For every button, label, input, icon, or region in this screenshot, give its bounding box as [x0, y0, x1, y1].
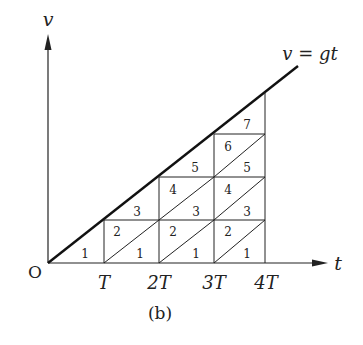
- region-label: 5: [243, 161, 251, 175]
- region-label: 3: [133, 205, 141, 219]
- region-label: 3: [192, 205, 200, 219]
- tick-label-4T: 4T: [253, 272, 279, 293]
- region-label: 1: [192, 247, 200, 261]
- region-label: 6: [224, 140, 232, 154]
- region-label: 2: [113, 225, 121, 239]
- tick-label-3T: 3T: [202, 272, 227, 293]
- region-label: 2: [224, 225, 232, 239]
- region-label: 5: [191, 161, 199, 175]
- t-axis-label: t: [334, 252, 342, 274]
- v-axis-label: v: [43, 8, 54, 30]
- region-label: 1: [243, 247, 251, 261]
- tick-label-2T: 2T: [146, 272, 172, 293]
- region-label: 3: [243, 205, 251, 219]
- tick-label-T: T: [98, 272, 112, 293]
- t-axis-arrow-icon: [312, 260, 328, 267]
- line-label: v = gt: [282, 43, 338, 64]
- v-axis-arrow-icon: [45, 34, 52, 50]
- region-label: 7: [243, 118, 251, 132]
- region-label: 2: [169, 225, 177, 239]
- region-label: 1: [81, 247, 89, 261]
- origin-label: O: [28, 262, 42, 282]
- velocity-time-diagram: 1 1 2 3 1 2 3 4 5 1 2 3 4 5 6 7 v t O T …: [0, 0, 363, 345]
- region-label: 1: [136, 247, 144, 261]
- region-labels: 1 1 2 3 1 2 3 4 5 1 2 3 4 5 6 7: [81, 118, 251, 261]
- figure-caption: (b): [148, 303, 172, 323]
- region-label: 4: [224, 183, 232, 197]
- region-label: 4: [169, 183, 177, 197]
- grid-horizontals: [104, 134, 265, 220]
